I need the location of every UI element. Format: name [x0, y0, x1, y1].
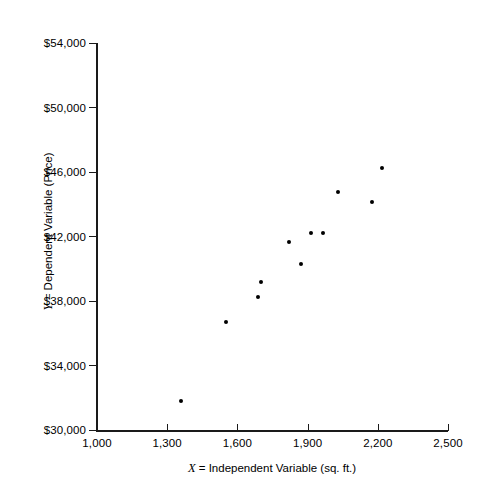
- data-point: [256, 295, 260, 299]
- x-tick-label: 1,900: [278, 437, 338, 450]
- data-point: [321, 231, 325, 235]
- data-point: [380, 166, 384, 170]
- x-axis-symbol: X: [188, 461, 196, 475]
- y-tick-label: $30,000: [2, 424, 86, 436]
- x-tick-mark: [448, 424, 449, 431]
- data-point: [224, 320, 228, 324]
- x-tick-label: 1,600: [207, 437, 267, 450]
- y-axis-symbol: Y: [41, 304, 55, 311]
- y-tick-label-wrap: $54,000: [0, 37, 86, 49]
- y-tick-mark: [89, 107, 97, 108]
- y-tick-mark: [89, 301, 97, 302]
- data-point: [179, 399, 183, 403]
- x-tick-mark: [97, 424, 98, 431]
- y-tick-label: $54,000: [2, 37, 86, 49]
- data-point: [370, 200, 374, 204]
- y-axis-line: [96, 43, 98, 432]
- y-tick-label-wrap: $30,000: [0, 424, 86, 436]
- data-point: [259, 280, 263, 284]
- y-tick-mark: [89, 365, 97, 366]
- x-tick-mark: [167, 424, 168, 431]
- x-tick-label: 1,000: [67, 437, 127, 450]
- y-tick-mark: [89, 172, 97, 173]
- data-point: [287, 240, 291, 244]
- y-axis-title: Y = Dependent Variable (Price): [42, 102, 55, 362]
- x-tick-mark: [308, 424, 309, 431]
- y-tick-mark: [89, 236, 97, 237]
- y-axis-title-text: = Dependent Variable (Price): [42, 153, 54, 301]
- x-tick-mark: [378, 424, 379, 431]
- x-axis-title-text: = Independent Variable (sq. ft.): [199, 462, 356, 474]
- x-axis-title: X = Independent Variable (sq. ft.): [96, 462, 448, 475]
- x-axis-line: [96, 430, 448, 432]
- data-point: [336, 190, 340, 194]
- scatter-plot-figure: $30,000$34,000$38,000$42,000$46,000$50,0…: [0, 0, 484, 497]
- data-point: [309, 231, 313, 235]
- y-tick-mark: [89, 430, 97, 431]
- y-tick-mark: [89, 43, 97, 44]
- data-points-layer: [0, 0, 484, 497]
- x-tick-label: 1,300: [137, 437, 197, 450]
- x-tick-mark: [237, 424, 238, 431]
- data-point: [299, 262, 303, 266]
- x-tick-label: 2,500: [418, 437, 478, 450]
- x-tick-label: 2,200: [348, 437, 408, 450]
